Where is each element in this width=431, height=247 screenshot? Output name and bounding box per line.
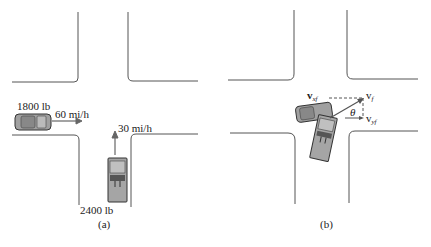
car-left: [15, 114, 51, 130]
label-vf: vf: [366, 89, 373, 105]
label-theta: θ: [350, 106, 355, 118]
car-left-weight: 1800 lb: [17, 100, 50, 112]
car-bottom-speed: 30 mi/h: [118, 122, 152, 134]
car-left-speed: 60 mi/h: [55, 108, 89, 120]
caption-a: (a): [98, 218, 110, 230]
car-bottom-weight: 2400 lb: [80, 204, 113, 216]
vector-diagram: [329, 98, 364, 120]
label-vxf: vxf: [307, 89, 318, 105]
arrow-up-icon: [112, 131, 118, 155]
caption-b: (b): [320, 218, 333, 230]
wrecked-cars: [295, 102, 337, 162]
label-vyf: vyf: [366, 112, 377, 128]
car-bottom: [108, 158, 127, 202]
